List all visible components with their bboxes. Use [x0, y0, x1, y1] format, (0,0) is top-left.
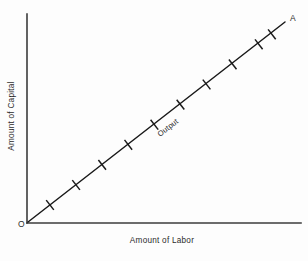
y-axis-label: Amount of Capital [7, 81, 16, 150]
origin-label: O [18, 219, 25, 229]
x-axis-label: Amount of Labor [130, 236, 194, 245]
output-ray [28, 22, 285, 222]
endpoint-label-a: A [290, 13, 296, 23]
ray-tick [46, 200, 54, 210]
figure-canvas: O A Output Amount of Capital Amount of L… [0, 0, 308, 261]
isoquant-figure: O A Output Amount of Capital Amount of L… [0, 0, 308, 261]
